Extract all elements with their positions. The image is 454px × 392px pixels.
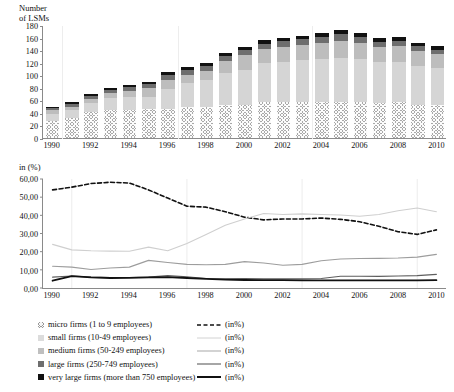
bar-segment-small bbox=[238, 70, 251, 106]
legend-pct-label: (in%) bbox=[225, 346, 244, 355]
bar-segment-small bbox=[65, 110, 78, 118]
top-chart-tick-mark bbox=[40, 76, 43, 77]
bottom-chart-x-tick: 1992 bbox=[82, 291, 98, 300]
legend-pct-label: (in%) bbox=[225, 333, 244, 342]
bar-1997 bbox=[181, 67, 194, 138]
top-chart-y-tick: 40 bbox=[30, 109, 38, 118]
line-series bbox=[53, 254, 437, 269]
bar-segment-small bbox=[296, 60, 309, 102]
bottom-chart-y-tick: 40,00 bbox=[20, 211, 38, 220]
top-chart-y-tick: 100 bbox=[26, 72, 38, 81]
light-gray-square-icon bbox=[38, 335, 44, 341]
bottom-chart-y-tick: 50,00 bbox=[20, 193, 38, 202]
top-chart-y-tick: 0 bbox=[34, 135, 38, 144]
bar-segment-small bbox=[431, 68, 444, 106]
bottom-chart-plot-area bbox=[42, 179, 446, 289]
top-chart-tick-mark bbox=[40, 139, 43, 140]
bar-1999 bbox=[219, 53, 232, 138]
bar-segment-small bbox=[334, 58, 347, 102]
bottom-chart-x-tick: 2010 bbox=[428, 291, 444, 300]
bottom-chart-x-ticks: 1990199219941996199820002002200420062008… bbox=[42, 291, 446, 305]
bar-segment-small bbox=[315, 59, 328, 102]
bar-segment-micro bbox=[296, 102, 309, 138]
bottom-chart-y-axis-title: in (%) bbox=[19, 163, 40, 173]
top-chart-tick-mark bbox=[40, 51, 43, 52]
bar-1990 bbox=[46, 107, 59, 138]
top-chart-gridline bbox=[178, 26, 179, 139]
black-square-icon bbox=[38, 374, 44, 380]
legend-pct-item-4: (in%) bbox=[196, 371, 244, 384]
bar-2006 bbox=[354, 33, 367, 138]
top-chart-gridline bbox=[62, 26, 63, 139]
bar-segment-small bbox=[46, 114, 59, 122]
bar-segment-micro bbox=[181, 107, 194, 138]
bar-segment-micro bbox=[258, 102, 271, 138]
bar-segment-micro bbox=[123, 110, 136, 138]
legend-item-label: very large firms (more than 750 employee… bbox=[48, 373, 195, 382]
bar-2000 bbox=[238, 47, 251, 138]
top-chart-y-tick: 140 bbox=[26, 47, 38, 56]
top-chart-x-ticks: 1990199219941996199820002002200420062008… bbox=[42, 141, 446, 155]
bar-segment-micro bbox=[65, 118, 78, 138]
bottom-chart-x-tick: 2000 bbox=[236, 291, 252, 300]
top-chart-x-tick: 2004 bbox=[313, 141, 329, 150]
bar-1994 bbox=[123, 85, 136, 138]
bar-segment-small bbox=[219, 73, 232, 106]
top-chart-y-axis-title: Number of LSMs bbox=[19, 4, 49, 23]
bar-segment-small bbox=[181, 83, 194, 106]
top-chart-x-tick: 2010 bbox=[428, 141, 444, 150]
bottom-chart-y-tick: 60,00 bbox=[20, 175, 38, 184]
bottom-chart-y-ticks: 0,0010,0020,0030,0040,0050,0060,00 bbox=[0, 179, 42, 289]
bar-segment-micro bbox=[392, 102, 405, 138]
bar-segment-micro bbox=[431, 105, 444, 138]
bar-1993 bbox=[104, 88, 117, 138]
medium-gray-square-icon bbox=[38, 348, 44, 354]
bar-segment-micro bbox=[334, 102, 347, 138]
bar-segment-small bbox=[392, 62, 405, 102]
top-chart-y-tick: 80 bbox=[30, 84, 38, 93]
dark-line-icon bbox=[196, 359, 222, 369]
bar-segment-medium bbox=[200, 71, 213, 80]
bottom-chart-x-tick: 1994 bbox=[120, 291, 136, 300]
top-chart-tick-mark bbox=[40, 39, 43, 40]
bar-2010 bbox=[431, 46, 444, 138]
bar-segment-micro bbox=[354, 102, 367, 138]
legend-item-3: large firms (250-749 employees) bbox=[38, 358, 158, 371]
bottom-chart-y-tick: 0,00 bbox=[24, 285, 38, 294]
dark-gray-square-icon bbox=[38, 361, 44, 367]
bottom-chart-x-tick: 2008 bbox=[390, 291, 406, 300]
legend-item-label: small firms (10-49 employees) bbox=[48, 333, 151, 342]
legend-pct-item-2: (in%) bbox=[196, 344, 244, 357]
legend-pct-label: (in%) bbox=[225, 320, 244, 329]
top-chart-tick-mark bbox=[40, 114, 43, 115]
medium-line-icon bbox=[196, 346, 222, 356]
bar-segment-medium bbox=[315, 43, 328, 59]
top-chart-x-tick: 2002 bbox=[274, 141, 290, 150]
top-chart-x-tick: 2008 bbox=[390, 141, 406, 150]
bar-segment-micro bbox=[373, 103, 386, 138]
bar-segment-small bbox=[200, 80, 213, 108]
top-chart-x-tick: 1990 bbox=[43, 141, 59, 150]
top-chart-x-tick: 1994 bbox=[120, 141, 136, 150]
hatched-square-icon bbox=[38, 322, 44, 328]
bar-segment-small bbox=[142, 97, 155, 110]
line-chart: in (%) 0,0010,0020,0030,0040,0050,0060,0… bbox=[0, 163, 454, 318]
bar-segment-small bbox=[161, 89, 174, 109]
legend-pct-label: (in%) bbox=[225, 373, 244, 382]
top-chart-tick-mark bbox=[40, 64, 43, 65]
top-chart-x-tick: 1992 bbox=[82, 141, 98, 150]
bar-segment-medium bbox=[431, 54, 444, 68]
top-chart-tick-mark bbox=[40, 101, 43, 102]
bar-segment-micro bbox=[142, 109, 155, 138]
stacked-bar-chart: Number of LSMs 020406080100120140160180 … bbox=[0, 0, 454, 162]
bar-segment-small bbox=[354, 59, 367, 102]
bottom-chart-y-tick: 30,00 bbox=[20, 230, 38, 239]
top-chart-x-tick: 2000 bbox=[236, 141, 252, 150]
bar-2004 bbox=[315, 33, 328, 138]
bar-segment-medium bbox=[296, 45, 309, 60]
bar-segment-medium bbox=[219, 61, 232, 73]
bottom-chart-x-tick: 1990 bbox=[43, 291, 59, 300]
top-chart-y-tick: 60 bbox=[30, 97, 38, 106]
bar-segment-micro bbox=[104, 110, 117, 138]
bar-segment-micro bbox=[46, 121, 59, 138]
